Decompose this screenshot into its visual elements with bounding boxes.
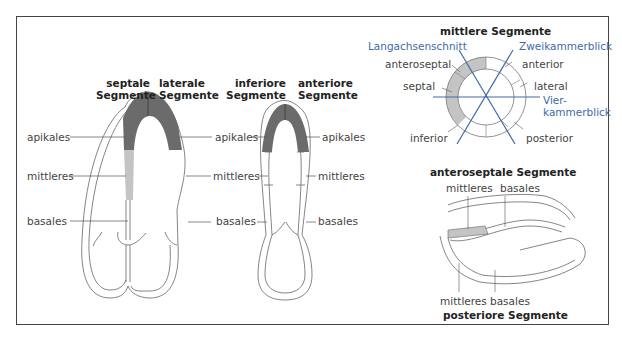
plane-long-axis: Langachsenschnitt (368, 40, 467, 52)
label-apical-3: apikales (322, 131, 365, 143)
header-line: inferiore (226, 77, 286, 89)
para-bottom-mid: mittleres (440, 295, 487, 307)
plane-two-chamber: Zweikammerblick (519, 40, 612, 52)
lateral-segments-header: laterale Segmente (159, 77, 219, 101)
anterior-segments-header: anteriore Segmente (298, 77, 358, 101)
header-line: anteriore (298, 77, 358, 89)
header-line: Segmente (159, 89, 219, 101)
label-apical-1: apikales (27, 131, 70, 143)
parasternal-heart (440, 194, 585, 283)
seg-anteroseptal: anteroseptal (385, 58, 451, 70)
header-line: septale (96, 77, 150, 89)
seg-posterior: posterior (526, 132, 573, 144)
para-top-mid: mittleres (446, 182, 493, 194)
septal-segments-header: septale Segmente (96, 77, 150, 101)
anteroseptal-title: anteroseptale Segmente (430, 166, 576, 178)
label-apical-2: apikales (215, 131, 258, 143)
label-mid-3: mittleres (318, 170, 365, 182)
label-mid-1: mittleres (27, 170, 74, 182)
para-top-basal: basales (500, 182, 540, 194)
header-line: Segmente (226, 89, 286, 101)
header-line: Segmente (298, 89, 358, 101)
label-basal-2: basales (216, 215, 256, 227)
para-bottom-basal: basales (490, 295, 530, 307)
two-chamber-apical-segment (262, 104, 309, 152)
header-line: Segmente (96, 89, 150, 101)
label-mid-2: mittleres (213, 170, 260, 182)
septal-mid-segment (124, 150, 134, 200)
short-axis-title: mittlere Segmente (440, 25, 551, 37)
posterior-title: posteriore Segmente (443, 309, 568, 321)
seg-inferior: inferior (410, 132, 448, 144)
header-line: laterale (159, 77, 219, 89)
seg-septal: septal (403, 80, 435, 92)
label-basal-3: basales (318, 215, 358, 227)
seg-lateral: lateral (534, 80, 568, 92)
seg-anterior: anterior (522, 58, 564, 70)
label-basal-1: basales (27, 215, 67, 227)
inferior-segments-header: inferiore Segmente (226, 77, 286, 101)
plane-four-chamber-1: Vier- (543, 94, 567, 106)
plane-four-chamber-2: kammerblick (543, 106, 611, 118)
